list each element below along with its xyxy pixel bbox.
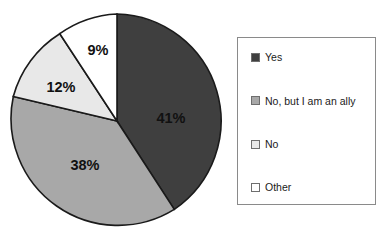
pie-chart-plot-area: 41% 38% 12% 9% xyxy=(9,13,225,229)
legend-label-no: No xyxy=(265,139,278,150)
pie-label-yes: 41% xyxy=(156,110,185,126)
legend-item-yes[interactable]: Yes xyxy=(251,51,369,64)
legend-item-other[interactable]: Other xyxy=(251,181,369,194)
legend-item-list: Yes No, but I am an ally No Other xyxy=(251,49,369,198)
legend-item-no-but-ally[interactable]: No, but I am an ally xyxy=(251,94,369,107)
legend-swatch-other xyxy=(251,183,260,192)
pie-chart-figure: 41% 38% 12% 9% Yes No, but I am an ally … xyxy=(0,0,391,243)
legend-label-yes: Yes xyxy=(265,52,282,63)
chart-legend: Yes No, but I am an ally No Other xyxy=(237,37,376,205)
pie-label-no-but-ally: 38% xyxy=(70,157,99,173)
legend-item-no[interactable]: No xyxy=(251,138,369,151)
pie-label-no: 12% xyxy=(46,79,75,95)
pie-label-other: 9% xyxy=(88,42,109,58)
legend-label-no-but-ally: No, but I am an ally xyxy=(265,96,355,107)
legend-swatch-yes xyxy=(251,53,260,62)
pie-chart-svg: 41% 38% 12% 9% xyxy=(9,13,225,229)
legend-swatch-no xyxy=(251,140,260,149)
legend-label-other: Other xyxy=(265,182,291,193)
legend-swatch-ally xyxy=(251,96,260,105)
